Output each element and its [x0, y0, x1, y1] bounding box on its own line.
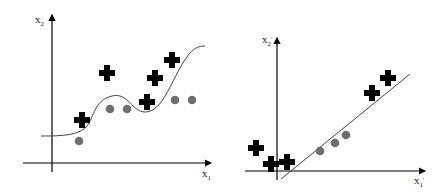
cross-marker-icon: [279, 154, 295, 170]
circle-marker-icon: [342, 131, 351, 140]
cross-marker-icon: [164, 52, 180, 68]
cross-marker-icon: [99, 65, 115, 81]
cross-marker-icon: [147, 70, 163, 86]
right-x-axis-label: x1': [414, 174, 424, 189]
circle-marker-icon: [316, 147, 325, 156]
right-circles: [316, 131, 351, 156]
circle-marker-icon: [123, 105, 132, 114]
cross-marker-icon: [380, 70, 396, 86]
left-crosses: [74, 52, 180, 128]
cross-marker-icon: [364, 85, 380, 101]
right-crosses: [248, 70, 396, 172]
circle-marker-icon: [331, 139, 340, 148]
left-plot: x2 x1: [23, 13, 212, 182]
left-circles: [75, 96, 197, 146]
circle-marker-icon: [75, 137, 84, 146]
nonlinear-boundary-curve: [41, 46, 205, 136]
circle-marker-icon: [171, 96, 180, 105]
cross-marker-icon: [248, 140, 264, 156]
right-y-axis-label: x2': [262, 33, 272, 48]
diagram-canvas: x2 x1 x2' x1': [0, 0, 445, 194]
left-x-axis-label: x1: [202, 167, 212, 182]
right-plot: x2' x1': [245, 33, 425, 189]
circle-marker-icon: [106, 105, 115, 114]
left-y-axis-label: x2: [35, 13, 45, 28]
cross-marker-icon: [139, 94, 155, 110]
linear-boundary-line: [281, 74, 410, 179]
circle-marker-icon: [188, 96, 197, 105]
